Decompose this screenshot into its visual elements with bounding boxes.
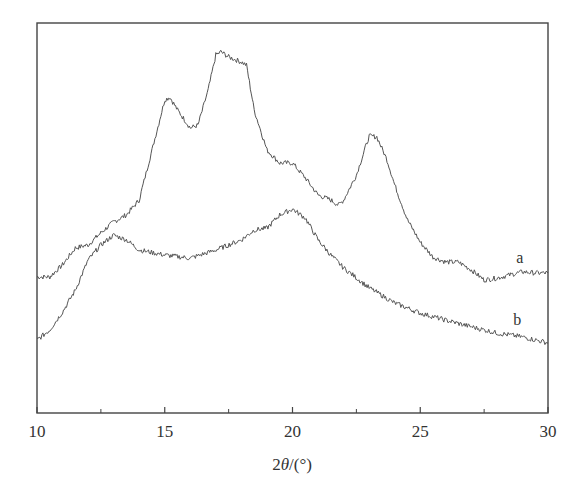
x-axis-title-prefix: 2 [272, 455, 281, 474]
x-tick-label: 25 [412, 422, 429, 441]
x-axis-tick-labels: 1015202530 [29, 422, 557, 441]
series-b-label: b [513, 311, 521, 328]
x-axis-title: 2θ/(°) [272, 455, 312, 474]
series-labels: ab [513, 249, 523, 328]
x-axis-title-symbol: θ [281, 455, 289, 474]
x-tick-label: 15 [156, 422, 173, 441]
x-tick-label: 30 [540, 422, 557, 441]
x-tick-label: 20 [284, 422, 301, 441]
plot-frame [37, 23, 548, 413]
xrd-chart: 1015202530 2θ/(°) ab [0, 0, 575, 498]
series-b-line [37, 209, 548, 345]
x-axis-ticks [37, 407, 548, 413]
x-axis-title-suffix: /(°) [289, 455, 312, 474]
series-a-label: a [516, 249, 523, 266]
plot-curves [37, 50, 548, 344]
series-a-line [37, 50, 548, 282]
x-tick-label: 10 [29, 422, 46, 441]
